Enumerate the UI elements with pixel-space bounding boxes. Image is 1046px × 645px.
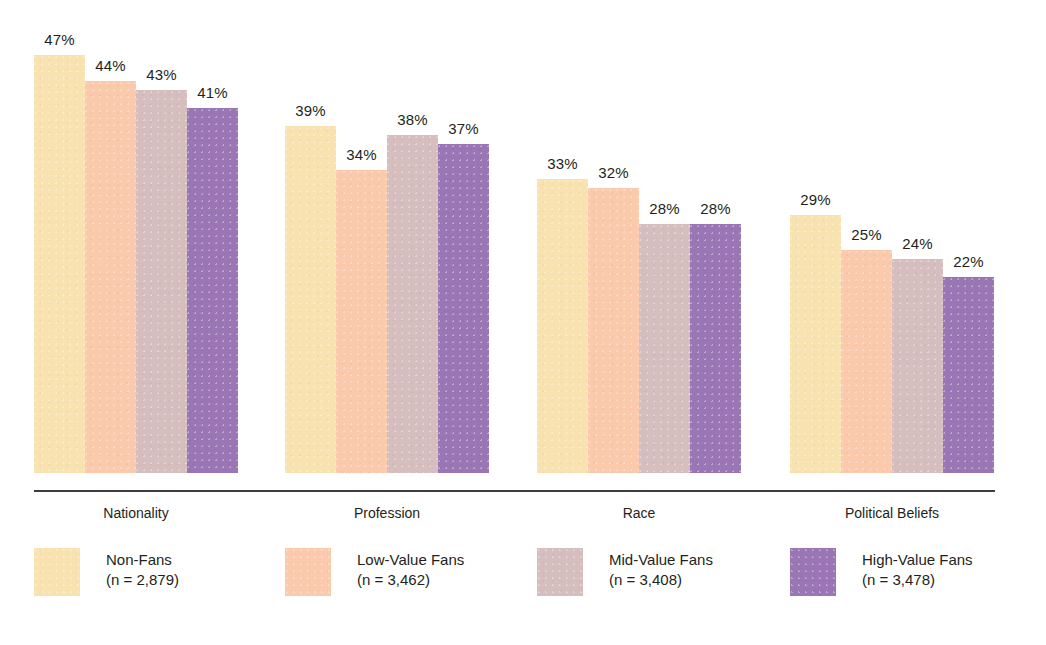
bar-group [34,33,238,473]
bar[interactable] [690,224,741,473]
legend-label: High-Value Fans(n = 3,478) [862,550,973,590]
bar[interactable] [34,55,85,473]
bar[interactable] [588,188,639,473]
bar[interactable] [943,277,994,473]
plot-area: 47%44%43%41%39%34%38%37%33%32%28%28%29%2… [0,0,1046,490]
grouped-bar-chart: 47%44%43%41%39%34%38%37%33%32%28%28%29%2… [0,0,1046,645]
bar-slot [136,90,187,473]
bar-slot [790,215,841,473]
bar[interactable] [85,81,136,473]
legend-swatch [537,548,583,596]
legend-swatch [790,548,836,596]
bar-slot [943,277,994,473]
legend-series-name: Low-Value Fans [357,550,464,570]
bar[interactable] [841,250,892,473]
bar[interactable] [136,90,187,473]
legend-label: Non-Fans(n = 2,879) [106,550,179,590]
bar[interactable] [537,179,588,473]
legend-sample-size: (n = 3,408) [609,570,713,590]
bar[interactable] [639,224,690,473]
bar-group [537,33,741,473]
bar-slot [537,179,588,473]
legend-swatch [34,548,80,596]
bar[interactable] [187,108,238,473]
bar-slot [841,250,892,473]
bar-slot [892,259,943,473]
chart-legend: Non-Fans(n = 2,879)Low-Value Fans(n = 3,… [0,548,1046,628]
legend-series-name: Non-Fans [106,550,179,570]
legend-label: Low-Value Fans(n = 3,462) [357,550,464,590]
legend-series-name: Mid-Value Fans [609,550,713,570]
bar[interactable] [438,144,489,473]
bar[interactable] [285,126,336,473]
legend-series-name: High-Value Fans [862,550,973,570]
bar-slot [639,224,690,473]
category-label: Political Beliefs [790,505,994,521]
bar-slot [387,135,438,473]
bar-group [285,33,489,473]
bar[interactable] [387,135,438,473]
bar-slot [336,170,387,473]
legend-sample-size: (n = 3,462) [357,570,464,590]
category-label: Profession [285,505,489,521]
bar-slot [588,188,639,473]
bar-slot [438,144,489,473]
bar-slot [34,55,85,473]
bar-slot [285,126,336,473]
category-label: Race [537,505,741,521]
bar[interactable] [892,259,943,473]
bar-slot [85,81,136,473]
bar-slot [187,108,238,473]
category-label: Nationality [34,505,238,521]
legend-sample-size: (n = 2,879) [106,570,179,590]
bar-slot [690,224,741,473]
bar-group [790,33,994,473]
legend-label: Mid-Value Fans(n = 3,408) [609,550,713,590]
legend-swatch [285,548,331,596]
legend-sample-size: (n = 3,478) [862,570,973,590]
bar[interactable] [790,215,841,473]
bar[interactable] [336,170,387,473]
x-axis-line [34,490,995,492]
